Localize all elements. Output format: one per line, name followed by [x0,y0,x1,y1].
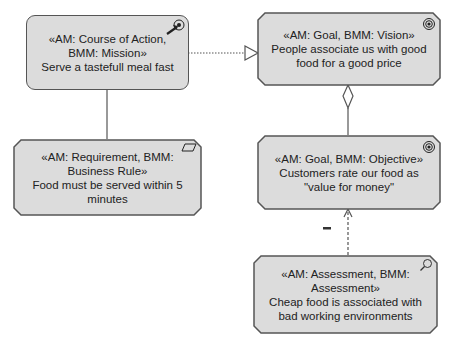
node-name: Customers rate our food as "value for mo… [271,166,427,194]
node-name: Cheap food is associated with bad workin… [267,295,424,323]
node-objective[interactable]: «AM: Goal, BMM: Objective» Customers rat… [257,135,441,210]
assessment-magnifier-icon [419,258,433,272]
node-stereotype: «AM: Assessment, BMM: Assessment» [267,267,424,295]
node-stereotype: «AM: Course of Action, BMM: Mission» [41,32,174,60]
goal-target-icon [422,140,436,154]
requirement-icon [181,143,197,153]
node-name: People associate us with good food for a… [271,42,427,70]
node-stereotype: «AM: Goal, BMM: Objective» [275,152,423,166]
node-mission[interactable]: «AM: Course of Action, BMM: Mission» Ser… [26,15,189,90]
node-name: Serve a tastefull meal fast [41,60,173,74]
node-business-rule[interactable]: «AM: Requirement, BMM: Business Rule» Fo… [13,139,202,216]
aggregation-diamond-icon [343,85,353,108]
course-of-action-icon [165,19,185,35]
node-vision[interactable]: «AM: Goal, BMM: Vision» People associate… [257,12,441,86]
node-name: Food must be served within 5 minutes [27,178,188,206]
node-stereotype: «AM: Requirement, BMM: Business Rule» [27,150,188,178]
node-assessment[interactable]: «AM: Assessment, BMM: Assessment» Cheap … [253,255,438,334]
influence-negative-label [323,227,331,230]
node-stereotype: «AM: Goal, BMM: Vision» [283,28,414,42]
goal-target-icon [422,17,436,31]
